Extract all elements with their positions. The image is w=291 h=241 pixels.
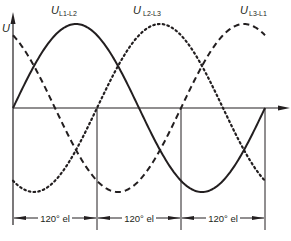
dimension-3-left-arrow-icon <box>182 216 194 220</box>
dimension-1-label: 120° el <box>40 213 70 224</box>
series-label-l2-l3: U L2-L3 <box>133 4 161 17</box>
y-axis-arrow-icon <box>11 12 16 24</box>
axes <box>11 12 291 225</box>
y-axis-label: U <box>2 22 10 34</box>
dimension-2: 120° el <box>98 213 180 224</box>
dimension-2-right-arrow-icon <box>168 216 180 220</box>
dimension-3: 120° el <box>182 213 264 224</box>
series-label-l3-l1: U L3-L1 <box>240 4 267 17</box>
dimension-2-label: 120° el <box>124 213 154 224</box>
series-label-l3-l1-symbol: U <box>240 4 248 16</box>
series-label-l1-l2: U L1-L2 <box>51 4 77 17</box>
series-label-l1-l2-symbol: U <box>51 4 59 16</box>
dimension-1-right-arrow-icon <box>84 216 96 220</box>
dimension-1-left-arrow-icon <box>14 216 26 220</box>
dimension-3-right-arrow-icon <box>252 216 264 220</box>
series-label-l3-l1-subscript: L3-L1 <box>249 10 267 17</box>
series-label-l2-l3-symbol: U <box>133 4 141 16</box>
dimension-1: 120° el <box>14 213 96 224</box>
x-axis-arrow-icon <box>278 106 290 111</box>
dimension-2-left-arrow-icon <box>98 216 110 220</box>
division-lines <box>97 108 265 230</box>
series-label-l2-l3-subscript: L2-L3 <box>143 10 161 17</box>
dimension-3-label: 120° el <box>208 213 238 224</box>
series-label-l1-l2-subscript: L1-L2 <box>59 10 77 17</box>
three-phase-voltage-diagram: U U L1-L2 U L2-L3 U L3-L1 120° el 120° e… <box>0 0 290 241</box>
